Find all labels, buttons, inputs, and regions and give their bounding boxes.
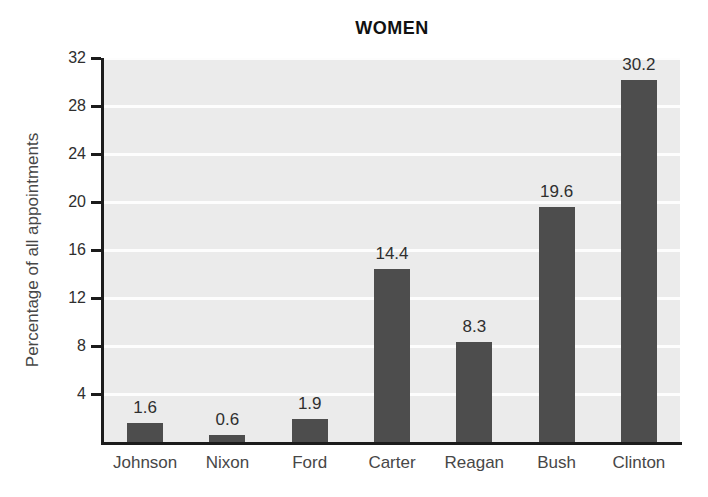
bar-value-johnson: 1.6 <box>133 398 157 418</box>
x-label-carter: Carter <box>368 453 415 473</box>
y-tick-12 <box>91 297 101 300</box>
bar-chart-figure: WOMEN Percentage of all appointments 1.6… <box>0 0 708 497</box>
bar-value-clinton: 30.2 <box>622 55 655 75</box>
chart-title: WOMEN <box>104 18 680 39</box>
bar-reagan <box>456 342 492 442</box>
x-label-reagan: Reagan <box>445 453 505 473</box>
y-tick-16 <box>91 249 101 252</box>
y-axis-line <box>101 58 104 442</box>
y-tick-label-32: 32 <box>38 50 86 66</box>
x-label-nixon: Nixon <box>206 453 249 473</box>
y-tick-label-20: 20 <box>38 194 86 210</box>
x-label-ford: Ford <box>292 453 327 473</box>
y-tick-32 <box>91 57 101 60</box>
x-axis-line <box>101 442 682 445</box>
bar-johnson <box>127 423 163 442</box>
x-label-bush: Bush <box>537 453 576 473</box>
bar-value-bush: 19.6 <box>540 182 573 202</box>
bar-clinton <box>621 80 657 442</box>
bar-nixon <box>209 435 245 442</box>
y-tick-label-16: 16 <box>38 242 86 258</box>
bar-carter <box>374 269 410 442</box>
y-tick-label-4: 4 <box>38 386 86 402</box>
y-tick-28 <box>91 105 101 108</box>
bar-layer: 1.60.61.914.48.319.630.2 <box>104 58 680 442</box>
x-label-johnson: Johnson <box>113 453 177 473</box>
y-tick-20 <box>91 201 101 204</box>
y-tick-label-8: 8 <box>38 338 86 354</box>
y-tick-label-24: 24 <box>38 146 86 162</box>
y-tick-label-12: 12 <box>38 290 86 306</box>
bar-value-ford: 1.9 <box>298 394 322 414</box>
bar-ford <box>292 419 328 442</box>
bar-value-reagan: 8.3 <box>462 317 486 337</box>
bar-value-carter: 14.4 <box>375 244 408 264</box>
plot-area: 1.60.61.914.48.319.630.2 <box>104 58 680 442</box>
x-label-clinton: Clinton <box>612 453 665 473</box>
y-tick-label-28: 28 <box>38 98 86 114</box>
y-tick-24 <box>91 153 101 156</box>
y-tick-8 <box>91 345 101 348</box>
y-tick-4 <box>91 393 101 396</box>
bar-bush <box>539 207 575 442</box>
bar-value-nixon: 0.6 <box>216 410 240 430</box>
